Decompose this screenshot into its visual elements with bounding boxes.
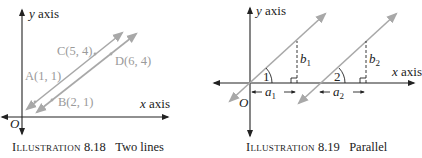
rise-b2-label: b2	[369, 51, 380, 68]
line-2	[299, 14, 396, 103]
x-axis-label: x axis	[391, 64, 422, 79]
point-c	[94, 53, 97, 56]
illustration-8-19: y axis x axis O 1 2 b1 b2 a1 a2	[214, 3, 422, 136]
caption-text: Two lines	[115, 140, 164, 154]
point-a	[34, 101, 37, 104]
point-d	[110, 53, 113, 56]
point-b	[51, 99, 54, 102]
origin-label: O	[10, 116, 20, 131]
origin-label: O	[239, 95, 249, 110]
point-a-label: A(1, 1)	[25, 69, 61, 83]
caption-prefix: Illustration	[246, 140, 315, 154]
right-angle-2	[360, 78, 366, 83]
angle-1-label: 1	[263, 69, 270, 84]
y-axis-label: y axis	[254, 3, 286, 18]
x-axis-label: x axis	[139, 96, 170, 111]
rise-b1-label: b1	[300, 51, 311, 68]
run-a1-label: a1	[265, 84, 276, 101]
right-angle-1	[291, 78, 297, 83]
y-axis-label: y axis	[27, 6, 59, 21]
point-c-label: C(5, 4)	[57, 44, 92, 58]
caption-prefix: Illustration	[12, 140, 81, 154]
caption-number: 8.19	[318, 140, 340, 154]
figure-canvas: y axis x axis O C(5, 4) D(6, 4) A(1, 1) …	[0, 0, 422, 158]
run-a2-label: a2	[333, 84, 344, 101]
point-d-label: D(6, 4)	[115, 54, 151, 68]
caption-8-18: Illustration 8.18 Two lines	[12, 140, 164, 155]
point-b-label: B(2, 1)	[58, 95, 93, 109]
caption-8-19: Illustration 8.19 Parallel	[246, 140, 387, 155]
caption-number: 8.18	[84, 140, 106, 154]
illustration-8-18: y axis x axis O C(5, 4) D(6, 4) A(1, 1) …	[2, 6, 170, 134]
caption-text: Parallel	[349, 140, 387, 154]
angle-2-label: 2	[334, 69, 341, 84]
